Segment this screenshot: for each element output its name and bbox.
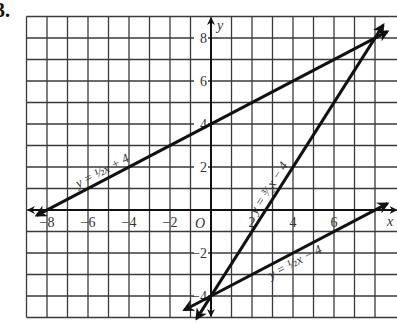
origin-label: O xyxy=(195,216,205,231)
x-tick-label: 6 xyxy=(331,215,338,230)
x-tick-label: −4 xyxy=(122,215,137,230)
x-axis-label: x xyxy=(386,214,394,229)
y-axis-label: y xyxy=(215,18,224,33)
coordinate-plane: xyO −8−6−4−22468642−2−4 y = ½x + 4y = ³⁄… xyxy=(0,0,397,325)
x-tick-label: −2 xyxy=(163,215,178,230)
y-tick-label: 2 xyxy=(200,160,207,175)
x-tick-label: −6 xyxy=(81,215,96,230)
x-tick-label: −8 xyxy=(40,215,55,230)
x-tick-label: 4 xyxy=(290,215,297,230)
y-tick-label: 6 xyxy=(200,74,207,89)
y-tick-label: 8 xyxy=(200,31,207,46)
y-tick-label: −2 xyxy=(192,246,207,261)
graph-line-3 xyxy=(184,204,387,310)
